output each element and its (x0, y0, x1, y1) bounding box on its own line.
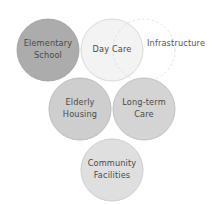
diagram-svg (0, 0, 215, 204)
diagram-canvas: Elementary School Day Care Infrastructur… (0, 0, 215, 204)
circle-elementary-school[interactable] (17, 19, 79, 81)
label-infrastructure-text: Infrastructure (147, 38, 205, 48)
label-infrastructure: Infrastructure (147, 38, 205, 49)
